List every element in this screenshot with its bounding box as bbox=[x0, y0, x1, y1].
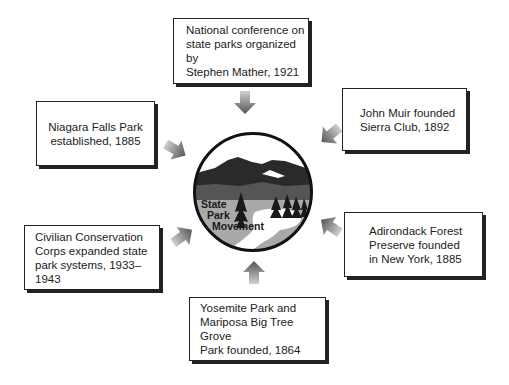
arrow-icon-from-left bbox=[160, 134, 191, 165]
box-text: Civilian Conservation Corps expanded sta… bbox=[35, 230, 159, 286]
arrow-icon-from-top bbox=[234, 91, 256, 114]
box-yosemite: Yosemite Park and Mariposa Big Tree Grov… bbox=[189, 297, 326, 361]
box-text: Yosemite Park and Mariposa Big Tree Grov… bbox=[200, 301, 325, 357]
box-text: National conference on state parks organ… bbox=[186, 23, 308, 79]
emblem-label-line-3: Movement bbox=[212, 220, 264, 232]
box-national-conference: National conference on state parks organ… bbox=[173, 18, 309, 84]
box-civilian-conservation: Civilian Conservation Corps expanded sta… bbox=[24, 225, 160, 290]
arrow-icon-from-right bbox=[315, 211, 346, 242]
box-text: Adirondack Forest Preserve founded in Ne… bbox=[369, 224, 462, 266]
arrow-icon-from-bottom-left bbox=[167, 221, 198, 252]
box-text: Niagara Falls Park established, 1885 bbox=[48, 120, 143, 148]
box-niagara: Niagara Falls Park established, 1885 bbox=[36, 101, 155, 166]
box-text: John Muir founded Sierra Club, 1892 bbox=[360, 106, 455, 134]
state-park-emblem: State Park Movement bbox=[190, 130, 320, 260]
box-john-muir: John Muir founded Sierra Club, 1892 bbox=[342, 88, 467, 151]
arrow-icon-from-bottom bbox=[243, 261, 265, 284]
box-adirondack: Adirondack Forest Preserve founded in Ne… bbox=[344, 212, 483, 277]
